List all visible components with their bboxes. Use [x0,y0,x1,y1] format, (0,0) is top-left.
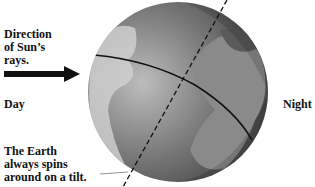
tilt-label: The Earth always spins around on a tilt. [4,145,86,184]
night-label: Night [283,98,312,111]
day-label: Day [4,98,25,111]
arrow-icon [4,66,80,82]
direction-line-3: rays. [4,54,52,67]
globe-icon [88,0,268,182]
direction-label: Direction of Sun’s rays. [4,28,52,67]
tilt-line-3: around on a tilt. [4,171,86,184]
